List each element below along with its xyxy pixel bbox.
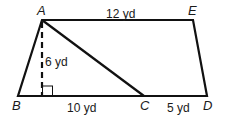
vertex-label-d: D bbox=[203, 98, 212, 113]
trapezoid-diagram: A E B C D 12 yd 6 yd 10 yd 5 yd bbox=[0, 0, 225, 115]
vertex-label-b: B bbox=[12, 98, 21, 113]
label-height: 6 yd bbox=[45, 55, 68, 69]
label-cd: 5 yd bbox=[167, 101, 190, 115]
right-angle-marker bbox=[43, 86, 53, 96]
vertex-label-a: A bbox=[36, 3, 46, 18]
vertex-label-e: E bbox=[188, 3, 197, 18]
label-top-base: 12 yd bbox=[106, 7, 135, 21]
label-bc: 10 yd bbox=[67, 101, 96, 115]
vertex-label-c: C bbox=[140, 98, 150, 113]
